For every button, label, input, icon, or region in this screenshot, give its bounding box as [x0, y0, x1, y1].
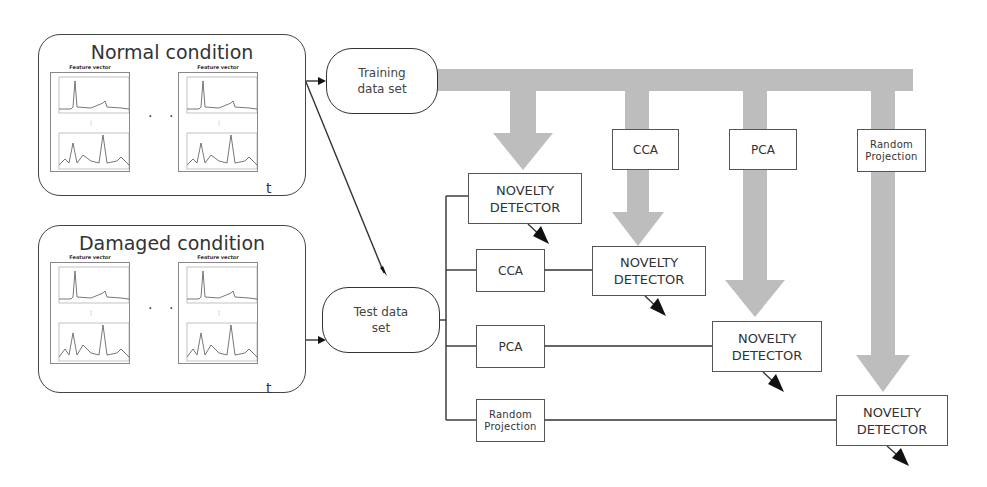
spectrum-plot-icon: ⋮ — [51, 73, 131, 173]
feature-vector-plot: Feature vector ⋮ — [50, 262, 130, 364]
svg-text:⋮: ⋮ — [216, 119, 222, 126]
damaged-condition-title: Damaged condition — [39, 232, 305, 254]
training-pca-box: PCA — [729, 129, 797, 170]
feature-vector-plot: Feature vector ⋮ — [50, 72, 130, 172]
spectrum-plot-icon: ⋮ — [179, 73, 259, 173]
svg-text:⋮: ⋮ — [216, 309, 222, 316]
test-data-set-node: Test data set — [322, 287, 440, 353]
normal-condition-title: Normal condition — [39, 41, 305, 63]
spectrum-plot-icon: ⋮ — [179, 263, 259, 365]
feature-vector-plot: Feature vector ⋮ — [178, 262, 258, 364]
feature-vector-plot: Feature vector ⋮ — [178, 72, 258, 172]
novelty-detector-pca: NOVELTY DETECTOR — [712, 321, 822, 372]
novelty-detector-random-projection: NOVELTY DETECTOR — [836, 395, 948, 446]
training-random-projection-box: Random Projection — [857, 129, 926, 172]
training-data-set-node: Training data set — [326, 48, 438, 114]
svg-text:⋮: ⋮ — [88, 309, 94, 316]
svg-text:⋮: ⋮ — [88, 119, 94, 126]
test-pca-box: PCA — [476, 325, 545, 368]
training-cca-box: CCA — [612, 129, 679, 170]
time-axis-label: t — [266, 180, 272, 196]
test-random-projection-box: Random Projection — [476, 399, 545, 442]
time-axis-label: t — [266, 380, 272, 396]
test-cca-box: CCA — [476, 249, 545, 292]
novelty-detector-direct: NOVELTY DETECTOR — [468, 173, 582, 224]
novelty-detector-cca: NOVELTY DETECTOR — [592, 246, 706, 296]
spectrum-plot-icon: ⋮ — [51, 263, 131, 365]
